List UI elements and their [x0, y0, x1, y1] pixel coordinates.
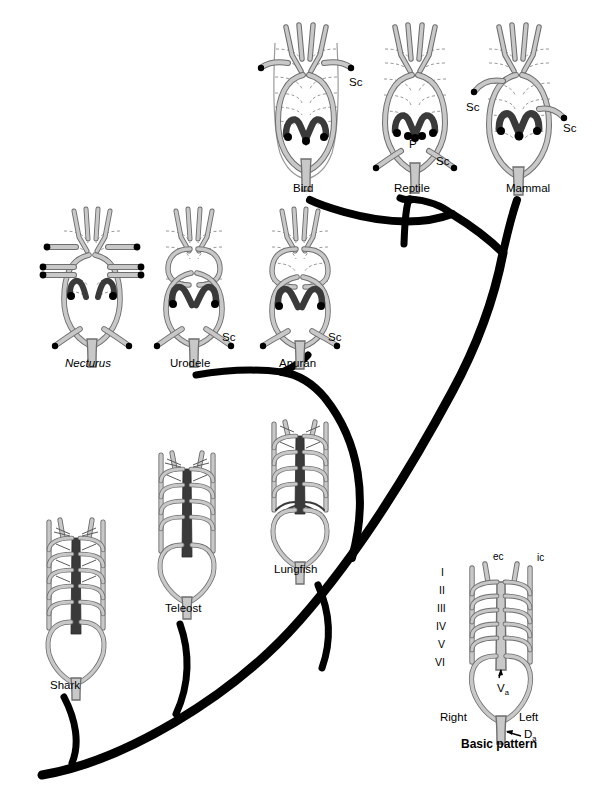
taxon-label-bird: Bird — [293, 182, 313, 194]
reptile-annotation-p: P — [409, 138, 417, 150]
taxon-label-necturus: Necturus — [65, 357, 111, 369]
basic-arch-numeral-5: V — [438, 638, 445, 650]
mammal-annotation-sc-right: Sc — [563, 122, 577, 134]
taxon-label-urodele: Urodele — [170, 357, 210, 369]
taxon-label-mammal: Mammal — [506, 182, 550, 194]
taxon-label-teleost: Teleost — [165, 602, 202, 614]
reptile-annotation-sc: Sc — [436, 155, 450, 167]
mammal-annotation-sc-left: Sc — [466, 101, 480, 113]
urodele-annotation-sc: Sc — [222, 331, 236, 343]
basic-arch-numeral-3: III — [437, 602, 446, 614]
taxon-label-lungfish: Lungfish — [274, 563, 317, 575]
basic-annotation-left: Left — [519, 711, 539, 723]
aortic-arch-evolution-figure: Sc — [0, 0, 599, 794]
basic-annotation-right: Right — [440, 711, 468, 723]
bird-annotation-sc: Sc — [349, 76, 363, 88]
basic-annotation-ic: ic — [537, 552, 544, 563]
lungfish-ventral-aorta — [295, 436, 305, 514]
taxon-label-reptile: Reptile — [394, 182, 430, 194]
taxon-label-anuran: Anuran — [279, 357, 316, 369]
anuran-annotation-sc: Sc — [328, 331, 342, 343]
taxon-label-shark: Shark — [50, 679, 80, 691]
basic-arch-numeral-6: VI — [435, 656, 445, 668]
basic-arch-numeral-2: II — [439, 584, 445, 596]
figure-canvas: Sc — [0, 0, 599, 794]
basic-pattern-label: Basic pattern — [461, 737, 537, 751]
basic-arch-numeral-1: I — [441, 566, 444, 578]
basic-arch-numeral-4: IV — [436, 620, 446, 632]
basic-annotation-ec: ec — [493, 551, 504, 562]
